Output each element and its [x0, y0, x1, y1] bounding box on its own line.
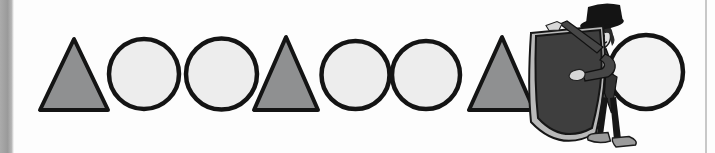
- pattern-shape-triangle: [469, 37, 534, 110]
- magician-hand-pointing: [546, 22, 562, 31]
- magician-hair-curl-right: [610, 33, 615, 46]
- magician-shoe-right: [612, 137, 636, 148]
- pattern-shape-triangle: [254, 37, 318, 110]
- pattern-shape-circle: [392, 41, 460, 109]
- magician-shoe-left: [588, 133, 611, 143]
- pattern-scene: [0, 0, 715, 153]
- magician-leg-right: [610, 97, 621, 140]
- pattern-shape-triangle: [40, 39, 108, 110]
- scanned-book-strip: [0, 0, 715, 153]
- pattern-shape-circle: [609, 35, 683, 109]
- pattern-shape-circle: [109, 39, 179, 109]
- pattern-shape-circle: [186, 39, 257, 110]
- pattern-shape-circle: [322, 41, 390, 109]
